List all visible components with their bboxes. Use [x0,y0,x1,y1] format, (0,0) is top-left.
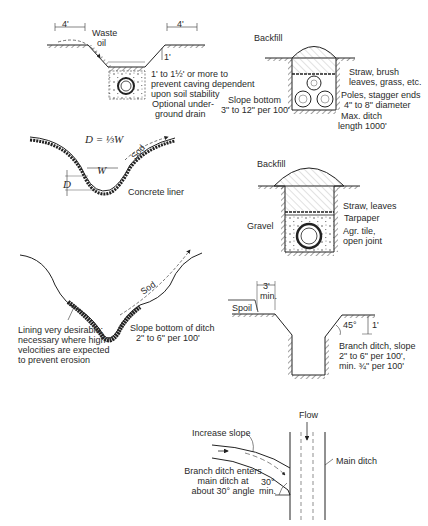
setback-label-1: 3' [263,281,270,291]
dim-right: 4' [177,19,184,29]
straw-label-1: Straw, brush [349,67,399,77]
straw-leaves-label: Straw, leaves [343,201,397,211]
slope-note-1: Slope bottom of ditch [130,323,215,333]
tile-label-2: open joint [343,236,382,246]
branch-note-1: Branch ditch enters [178,466,268,476]
poles-label-2: 4" to 8" diameter [344,100,410,110]
slope-note-2: 2" to 6" per 100' [136,333,200,343]
tile-label-1: Agr. tile, [343,226,376,236]
formula-label: D = ⅓W [85,134,123,144]
tarpaper-label: Tarpaper [344,213,380,223]
slope-note-3: upon soil stability [151,89,220,99]
lining-note-4: to prevent erosion [18,355,90,365]
spoil-label: Spoil [232,303,252,313]
slope-note-2: prevent caving dependent [151,79,255,89]
rise-label: 1' [164,52,171,62]
lining-note-2: necessary where high [18,335,106,345]
gravel-label: Gravel [247,221,274,231]
lining-note-3: velocities are expected [18,345,110,355]
angle-label: 45° [343,320,357,330]
setback-label-2: min. [260,291,277,301]
slope-note-1: 1' to 1½' or more to [151,69,228,79]
drain-note-1: Optional under- [152,99,214,109]
increase-slope-label: Increase slope [192,428,251,438]
depth-label: D [63,179,71,189]
slope-label-1: Slope bottom [228,95,281,105]
poles-label-1: Poles, stagger ends [341,90,421,100]
dim-left: 4' [62,19,69,29]
max-len-label-1: Max. ditch [341,111,382,121]
rise-label: 1' [372,320,379,330]
branch-note-2: main ditch at [178,476,268,486]
branch-note-1: Branch ditch, slope [339,341,416,351]
straw-label-2: leaves, grass, etc. [349,77,422,87]
waste-oil-label-2: oil [97,38,106,48]
liner-label: Concrete liner [128,187,184,197]
width-label: W [97,165,106,175]
branch-note-2: 2" to 6" per 100', [339,351,405,361]
branch-note-3: about 30° angle [178,486,268,496]
waste-oil-label-1: Waste [92,28,117,38]
main-ditch-label: Main ditch [336,456,377,466]
drain-note-2: ground drain [155,109,206,119]
max-len-label-2: length 1000' [338,121,387,131]
backfill-label: Backfill [254,33,283,43]
slope-label-2: 3" to 12" per 100' [221,105,290,115]
backfill-label: Backfill [257,159,286,169]
lining-note-1: Lining very desirable; [18,325,103,335]
flow-label: Flow [299,410,318,420]
branch-note-3: min. ¾" per 100' [339,361,404,371]
angle-label-2: min. [259,486,276,496]
